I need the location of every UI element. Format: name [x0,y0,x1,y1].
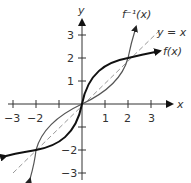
y-tick-label: 1 [67,75,74,88]
x-axis [8,100,172,108]
identity-label: y = x [156,26,187,39]
x-tick-label: −2 [27,112,43,125]
function-inverse-chart: −3 −2 1 2 3 3 2 1 −2 −3 x y f⁻¹(x) y = x… [0,0,191,183]
function-label: f(x) [163,45,182,58]
x-tick-label: −3 [4,112,20,125]
y-tick-label: −3 [61,167,77,180]
x-tick-label: 2 [124,112,131,125]
x-axis-label: x [176,98,184,111]
x-tick-label: 1 [102,112,109,125]
y-tick-label: 2 [67,52,74,65]
y-tick-label: −2 [61,144,77,157]
x-tick-label: 3 [148,112,155,125]
y-tick-label: 3 [67,29,74,42]
inverse-function-label: f⁻¹(x) [122,8,151,21]
y-axis-label: y [77,4,85,17]
